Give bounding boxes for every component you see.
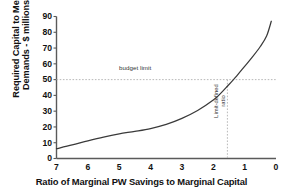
x-tick-label: 7	[49, 162, 65, 172]
y-tick-label: 40	[28, 90, 52, 100]
y-tick-label: 50	[28, 74, 52, 84]
x-tick-label: 1	[237, 162, 253, 172]
chart-figure: Required Capital to Meet Demands - $ mil…	[0, 0, 283, 194]
y-tick-label: 80	[28, 27, 52, 37]
x-tick-label: 4	[143, 162, 159, 172]
y-tick-label: 70	[28, 43, 52, 53]
data-curve	[57, 21, 272, 148]
y-tick-label: 20	[28, 122, 52, 132]
x-tick-label: 3	[174, 162, 190, 172]
x-tick-label: 0	[268, 162, 283, 172]
x-axis-label: Ratio of Marginal PW Savings to Marginal…	[0, 176, 283, 187]
x-tick-label: 2	[205, 162, 221, 172]
y-tick-label: 10	[28, 138, 52, 148]
x-tick-label: 6	[80, 162, 96, 172]
budget-limit-label: budget limit	[119, 64, 151, 71]
x-tick-label: 5	[111, 162, 127, 172]
y-tick-label: 90	[28, 11, 52, 21]
y-tick-label: 60	[28, 59, 52, 69]
y-tick-label: 30	[28, 106, 52, 116]
